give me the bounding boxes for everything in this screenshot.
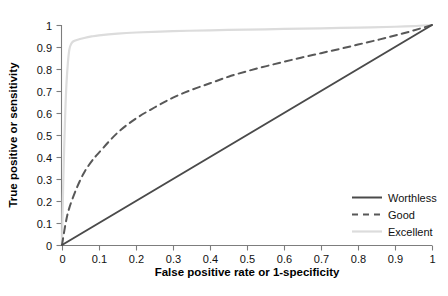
y-tick-label-8: 0.8 — [37, 64, 52, 76]
x-axis-title: False positive rate or 1-specificity — [155, 266, 340, 278]
x-tick-label-3: 0.3 — [166, 253, 181, 265]
y-tick-label-4: 0.4 — [37, 152, 52, 164]
x-tick-label-0: 0 — [59, 253, 65, 265]
roc-curve-figure: 00.10.20.30.40.50.60.70.80.91 00.10.20.3… — [0, 0, 448, 296]
y-axis-title: True positive or sensitivity — [7, 62, 19, 208]
y-tick-label-1: 0.1 — [37, 218, 52, 230]
y-tick-label-9: 0.9 — [37, 42, 52, 54]
y-tick-label-7: 0.7 — [37, 86, 52, 98]
x-tick-label-8: 0.8 — [351, 253, 366, 265]
y-tick-label-3: 0.3 — [37, 174, 52, 186]
y-tick-label-10: 1 — [46, 20, 52, 32]
x-tick-label-5: 0.5 — [240, 253, 255, 265]
x-tick-label-4: 0.4 — [203, 253, 218, 265]
y-tick-label-6: 0.6 — [37, 108, 52, 120]
legend-label-worthless: Worthless — [388, 192, 437, 204]
x-tick-label-10: 1 — [429, 253, 435, 265]
legend-label-good: Good — [388, 209, 415, 221]
y-tick-label-0: 0 — [46, 240, 52, 252]
x-tick-label-2: 0.2 — [129, 253, 144, 265]
y-tick-label-2: 0.2 — [37, 196, 52, 208]
x-tick-label-7: 0.7 — [314, 253, 329, 265]
roc-chart: 00.10.20.30.40.50.60.70.80.91 00.10.20.3… — [0, 0, 448, 296]
y-tick-label-5: 0.5 — [37, 130, 52, 142]
x-tick-label-9: 0.9 — [388, 253, 403, 265]
x-tick-label-1: 0.1 — [92, 253, 107, 265]
legend-label-excellent: Excellent — [388, 226, 433, 238]
x-tick-label-6: 0.6 — [277, 253, 292, 265]
